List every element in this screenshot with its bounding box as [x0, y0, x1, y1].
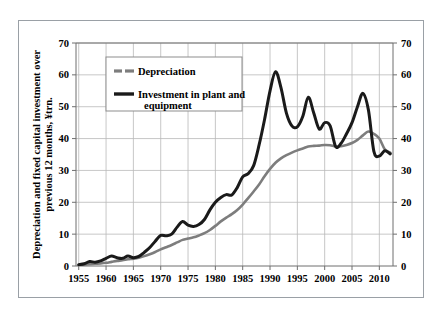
x-tick-label: 1970	[150, 273, 171, 284]
legend-label-investment-line1: Investment in plant and	[138, 89, 245, 100]
x-tick-label: 1975	[178, 273, 199, 284]
legend-label-investment-line2: equipment	[144, 100, 192, 111]
y-tick-label-left: 70	[59, 38, 70, 49]
legend-label-depreciation: Depreciation	[138, 66, 196, 77]
y-axis-right: 010203040506070	[393, 38, 412, 272]
x-tick-label: 2010	[369, 273, 390, 284]
y-tick-label-left: 10	[59, 229, 70, 240]
legend: DepreciationInvestment in plant andequip…	[106, 57, 245, 111]
y-axis-title-line1: Depreciation and fixed capital investmen…	[31, 50, 42, 259]
y-tick-label-right: 40	[401, 133, 412, 144]
y-tick-label-right: 60	[401, 69, 412, 80]
y-tick-label-left: 40	[59, 133, 70, 144]
y-tick-label-right: 50	[401, 101, 412, 112]
x-tick-label: 1995	[287, 273, 308, 284]
x-axis: 1955196019651970197519801985199019952000…	[68, 266, 390, 284]
y-tick-label-right: 10	[401, 229, 412, 240]
y-axis-left: 010203040506070	[59, 38, 77, 272]
y-tick-label-left: 50	[59, 101, 70, 112]
line-chart: 0102030405060700102030405060701955196019…	[0, 0, 436, 314]
x-tick-label: 1985	[232, 273, 253, 284]
y-tick-label-left: 60	[59, 69, 70, 80]
x-tick-label: 1990	[260, 273, 281, 284]
x-tick-label: 1955	[68, 273, 89, 284]
y-tick-label-left: 30	[59, 165, 70, 176]
y-tick-label-right: 30	[401, 165, 412, 176]
x-tick-label: 1960	[96, 273, 117, 284]
x-tick-label: 2000	[314, 273, 335, 284]
y-tick-label-left: 0	[64, 261, 69, 272]
y-tick-label-right: 0	[401, 261, 406, 272]
y-axis-title-line2: previous 12 months, ¥trn.	[43, 97, 54, 212]
x-tick-label: 2005	[342, 273, 363, 284]
y-axis-title: Depreciation and fixed capital investmen…	[31, 50, 54, 259]
chart-container: 0102030405060700102030405060701955196019…	[0, 0, 436, 314]
x-tick-label: 1980	[205, 273, 226, 284]
y-tick-label-left: 20	[59, 197, 70, 208]
y-tick-label-right: 70	[401, 38, 412, 49]
y-tick-label-right: 20	[401, 197, 412, 208]
x-tick-label: 1965	[123, 273, 144, 284]
